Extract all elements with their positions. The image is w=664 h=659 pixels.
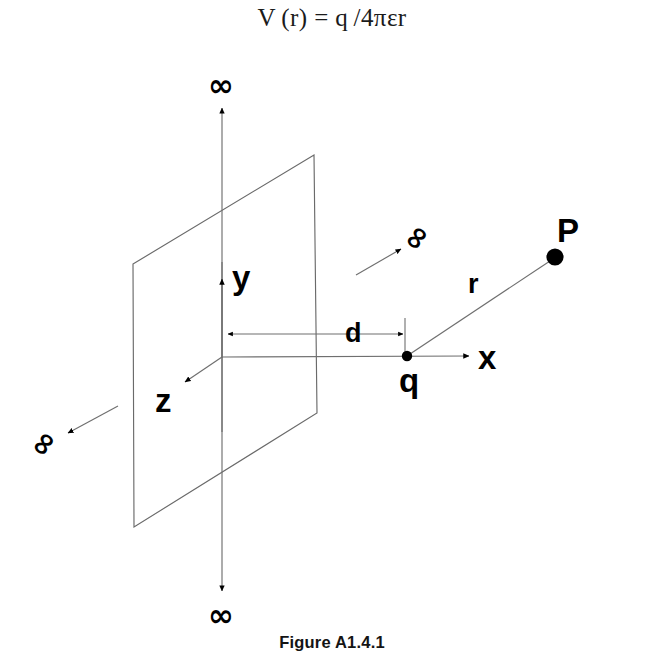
distance-d-label: d (345, 320, 362, 347)
field-point-marker (546, 248, 563, 265)
z-axis-label: z (155, 384, 172, 417)
figure-page: V (r) = q /4πεr (0, 0, 664, 659)
z-axis-line (185, 357, 222, 382)
field-point-label: P (557, 214, 579, 247)
figure-caption: Figure A1.4.1 (0, 633, 664, 652)
grounded-plane-outline (133, 155, 317, 527)
x-axis-line (222, 356, 469, 357)
radius-r-label: r (468, 271, 479, 298)
charge-point-marker (402, 351, 412, 361)
infinity-top-label: ∞ (208, 70, 234, 101)
charge-label: q (399, 364, 419, 397)
infinity-bottom-label: ∞ (208, 600, 234, 631)
y-axis-label: y (232, 261, 250, 294)
x-axis-label: x (478, 341, 496, 374)
infinity-upper-right-arrow (356, 249, 401, 275)
infinity-left-arrow (68, 406, 118, 433)
figure-line-art (0, 0, 664, 659)
